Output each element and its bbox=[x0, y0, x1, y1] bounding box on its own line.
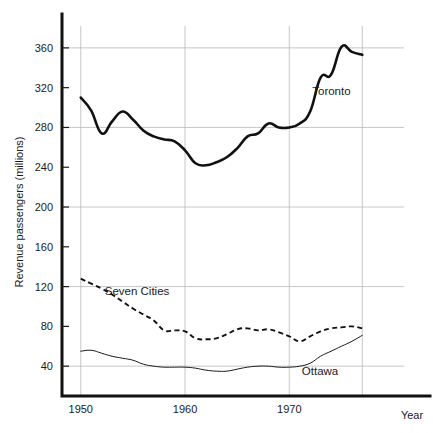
y-tick-label: 160 bbox=[35, 241, 53, 253]
axis-spine-path bbox=[62, 14, 430, 396]
x-axis-title: Year bbox=[401, 409, 424, 421]
axis-spines bbox=[62, 14, 430, 396]
x-tick-label: 1960 bbox=[173, 403, 197, 415]
x-axis-ticks: 195019601970 bbox=[69, 403, 302, 415]
y-tick-label: 280 bbox=[35, 121, 53, 133]
y-tick-label: 80 bbox=[41, 320, 53, 332]
y-tick-label: 360 bbox=[35, 42, 53, 54]
line-chart-canvas: 4080120160200240280320360 195019601970 T… bbox=[0, 0, 433, 433]
x-tick-label: 1970 bbox=[277, 403, 301, 415]
y-tick-label: 200 bbox=[35, 201, 53, 213]
y-axis-ticks: 4080120160200240280320360 bbox=[35, 42, 69, 372]
y-tick-label: 40 bbox=[41, 360, 53, 372]
series-line-toronto bbox=[81, 45, 363, 165]
series-label-toronto: Toronto bbox=[312, 85, 350, 97]
series-label-seven-cities: Seven Cities bbox=[105, 285, 170, 297]
y-tick-label: 240 bbox=[35, 161, 53, 173]
y-tick-label: 320 bbox=[35, 82, 53, 94]
y-axis-title: Revenue passengers (millions) bbox=[13, 136, 25, 287]
x-tick-label: 1950 bbox=[69, 403, 93, 415]
series-label-ottawa: Ottawa bbox=[302, 365, 339, 377]
y-tick-label: 120 bbox=[35, 281, 53, 293]
chart-figure: 4080120160200240280320360 195019601970 T… bbox=[0, 0, 433, 433]
